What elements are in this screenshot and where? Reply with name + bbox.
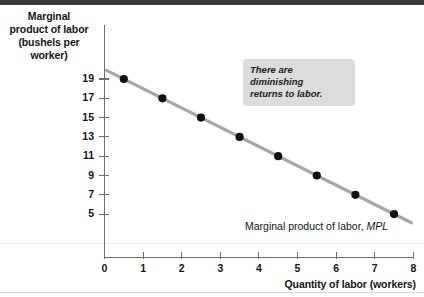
data-point — [197, 114, 205, 122]
data-point — [236, 133, 244, 141]
callout-line-2: returns to labor. — [250, 88, 348, 100]
x-axis-title: Quantity of labor (workers) — [180, 278, 416, 290]
diminishing-returns-callout: There are diminishing returns to labor. — [243, 59, 355, 106]
series-curve-label-prefix: Marginal product of labor, — [245, 220, 366, 232]
series-curve-label-mpl: MPL — [366, 220, 388, 232]
plot-area — [0, 0, 424, 297]
data-point — [390, 210, 398, 218]
callout-line-1: There are diminishing — [250, 64, 348, 88]
chart-figure: Marginal product of labor (bushels per w… — [0, 0, 424, 297]
data-point — [120, 75, 128, 83]
data-point — [313, 171, 321, 179]
series-curve-label: Marginal product of labor, MPL — [245, 220, 388, 232]
data-point — [274, 152, 282, 160]
data-point — [158, 94, 166, 102]
data-point — [351, 191, 359, 199]
